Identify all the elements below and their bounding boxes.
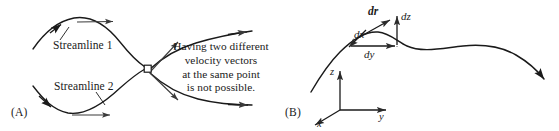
junction-marker-icon <box>144 65 151 72</box>
z-axis-label: z <box>330 66 334 78</box>
x-axis-label: x <box>317 118 322 130</box>
streamline-curve <box>311 32 544 92</box>
streamline-2-label: Streamline 2 <box>54 80 114 93</box>
streamline-1-label: Streamline 1 <box>53 39 113 52</box>
dr-vector-label: dr <box>368 5 378 18</box>
dy-label: dy <box>364 48 374 60</box>
lower-right-flow-arrow <box>228 105 248 106</box>
callout-line-3: at the same point <box>172 68 270 82</box>
panel-a-label: (A) <box>11 106 28 119</box>
panel-b: dr dz dx dy z y x (B) <box>280 0 559 131</box>
panel-a: Streamline 1 Streamline 2 Having two dif… <box>0 0 280 131</box>
callout-line-4: is not possible. <box>172 81 270 95</box>
panel-b-diagram <box>280 0 559 131</box>
callout-line-2: velocity vectors <box>172 54 270 68</box>
callout-line-1: Having two different <box>172 40 270 54</box>
figure-container: Streamline 1 Streamline 2 Having two dif… <box>0 0 559 131</box>
coordinate-axes <box>315 71 386 125</box>
callout-text: Having two different velocity vectors at… <box>172 40 270 95</box>
upper-right-flow-arrow <box>228 32 247 35</box>
streamline-1-velocity-vector <box>77 22 113 23</box>
streamline-2-flow-arrow <box>39 96 51 107</box>
dx-label: dx <box>354 28 364 40</box>
dz-label: dz <box>401 10 411 22</box>
y-axis-label: y <box>379 111 384 123</box>
panel-b-label: (B) <box>285 106 301 119</box>
